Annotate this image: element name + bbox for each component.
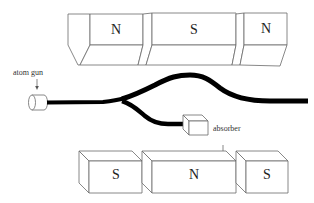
bottom-magnet-array: S N S: [79, 151, 288, 193]
atom-beam-incoming: [47, 98, 125, 103]
top-magnet-1-pole-label: N: [111, 22, 121, 37]
bottom-magnet-3: S: [236, 151, 288, 193]
top-magnet-3-bottom-face: [240, 45, 287, 66]
bottom-magnet-1: S: [79, 151, 142, 193]
top-magnet-1: N: [68, 14, 143, 65]
bottom-magnet-2-pole-label: N: [189, 167, 199, 182]
bottom-magnet-2: N: [142, 151, 236, 193]
top-magnet-1-bottom-face: [80, 45, 143, 65]
bottom-magnet-3-pole-label: S: [263, 167, 271, 182]
top-magnet-2: S: [138, 13, 236, 65]
top-magnet-3: N: [232, 13, 287, 66]
bottom-magnet-1-top-face: [79, 151, 142, 161]
bottom-magnet-2-top-face: [142, 151, 236, 161]
bottom-magnet-1-pole-label: S: [112, 167, 120, 182]
atom-beam-lower-branch: [122, 101, 186, 124]
top-magnet-2-pole-label: S: [190, 22, 198, 37]
atom-gun-cylinder-face: [29, 95, 36, 110]
top-magnet-3-pole-label: N: [261, 21, 271, 36]
absorber: absorber: [183, 115, 241, 135]
top-magnet-array: N S N: [68, 13, 287, 66]
atom-gun-arrow-head-icon: [35, 86, 39, 90]
atom-gun: atom gun: [13, 68, 48, 110]
atom-interferometer-diagram: N S N atom gun absorber: [0, 0, 314, 203]
atom-beam-upper-branch: [122, 75, 308, 101]
absorber-label: absorber: [213, 124, 241, 133]
absorber-front-face: [189, 121, 208, 135]
atom-gun-label: atom gun: [13, 68, 43, 77]
top-magnet-2-bottom-face: [146, 45, 236, 65]
atom-beam-paths: [47, 75, 308, 124]
